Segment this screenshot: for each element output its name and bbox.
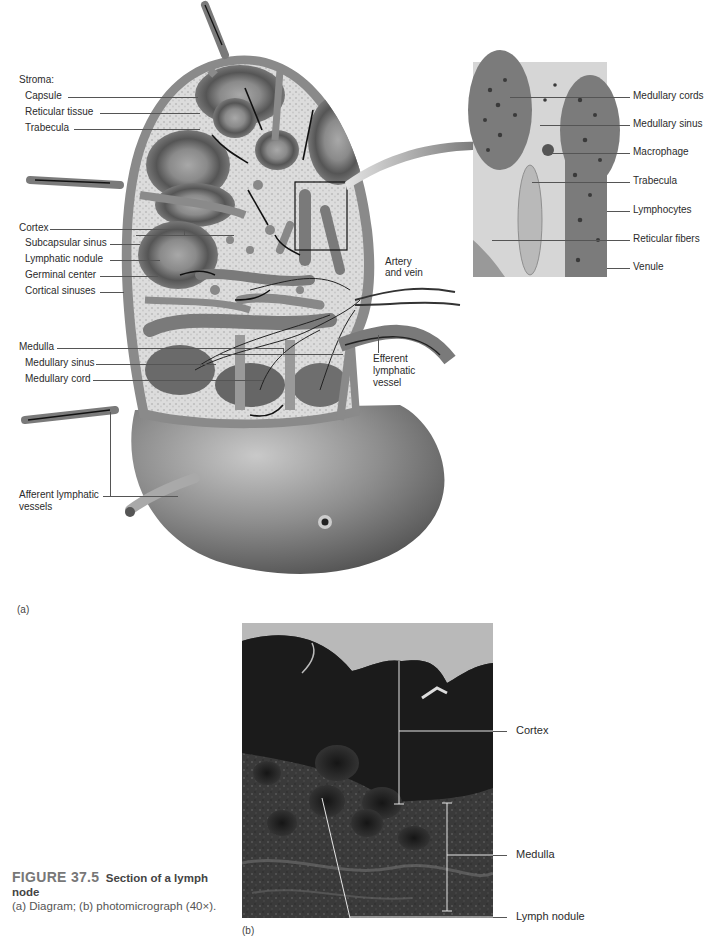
inset-label-macrophage: Macrophage bbox=[633, 146, 689, 158]
label-efferent-vessel: Efferent bbox=[373, 353, 408, 365]
leader-photo-medulla bbox=[493, 855, 507, 856]
panel-b-letter: (b) bbox=[242, 925, 254, 936]
leader-lymphatic-nodule bbox=[110, 260, 160, 261]
inset-leader-reticular-fibers bbox=[492, 240, 630, 241]
photo-label-medulla: Medulla bbox=[516, 848, 555, 860]
label-stroma-heading: Stroma: bbox=[19, 74, 54, 86]
label-trabecula: Trabecula bbox=[25, 122, 69, 134]
inset-label-reticular-fibers: Reticular fibers bbox=[633, 233, 700, 245]
leader-cortex bbox=[50, 229, 185, 230]
panel-b-photomicrograph bbox=[242, 623, 493, 918]
inset-leader-macrophage bbox=[552, 153, 630, 154]
figure-description: (a) Diagram; (b) photomicrograph (40×). bbox=[12, 899, 237, 913]
leader-germinal-center bbox=[100, 276, 158, 277]
label-afferent-vessels: Afferent lymphatic bbox=[19, 489, 99, 501]
bracket-medulla bbox=[220, 354, 343, 355]
label-cortical-sinuses: Cortical sinuses bbox=[25, 285, 96, 297]
inset-label-venule: Venule bbox=[633, 261, 664, 273]
photomicrograph-image bbox=[242, 623, 493, 918]
inset-label-medullary-sinus: Medullary sinus bbox=[633, 118, 702, 130]
leader-efferent-vessel bbox=[378, 335, 379, 353]
leader-reticular-tissue bbox=[100, 113, 200, 114]
label-efferent-vessel-line3: vessel bbox=[373, 377, 401, 389]
label-reticular-tissue: Reticular tissue bbox=[25, 106, 93, 118]
leader-photo-cortex bbox=[493, 731, 507, 732]
label-medullary-sinus: Medullary sinus bbox=[25, 357, 94, 369]
label-capsule: Capsule bbox=[25, 90, 62, 102]
label-efferent-vessel-line2: lymphatic bbox=[373, 365, 415, 377]
leader-subcapsular-sinus bbox=[110, 244, 140, 245]
inset-leader-venule bbox=[607, 268, 630, 269]
inset-leader-lymphocytes bbox=[607, 211, 630, 212]
leader-medullary-cord bbox=[93, 380, 263, 381]
panel-a-letter: (a) bbox=[17, 604, 29, 615]
label-afferent-vessels-line2: vessels bbox=[19, 501, 52, 513]
inset-label-lymphocytes: Lymphocytes bbox=[633, 204, 692, 216]
figure-number: FIGURE 37.5 bbox=[12, 869, 99, 885]
leader-medulla bbox=[57, 348, 283, 349]
photo-label-lymph-nodule: Lymph nodule bbox=[516, 910, 585, 922]
label-medulla: Medulla bbox=[19, 341, 54, 353]
label-artery-and-vein-line2: and vein bbox=[385, 267, 423, 279]
figure-caption: FIGURE 37.5 Section of a lymph node (a) … bbox=[12, 870, 237, 913]
photo-label-cortex: Cortex bbox=[516, 724, 548, 736]
leader-capsule bbox=[68, 97, 198, 98]
inset-leader-medullary-cords bbox=[510, 97, 630, 98]
inset-label-medullary-cords: Medullary cords bbox=[633, 90, 704, 102]
leader-photo-lymph-nodule bbox=[493, 917, 507, 918]
leader-afferent-vessels-vertical bbox=[110, 412, 111, 496]
label-lymphatic-nodule: Lymphatic nodule bbox=[25, 253, 103, 265]
leader-cortical-sinuses bbox=[100, 292, 124, 293]
bracket-cortex bbox=[136, 235, 234, 236]
label-germinal-center: Germinal center bbox=[25, 269, 96, 281]
label-subcapsular-sinus: Subcapsular sinus bbox=[25, 237, 107, 249]
inset-leader-trabecula bbox=[532, 182, 630, 183]
lymph-node-illustration bbox=[0, 0, 723, 610]
label-cortex: Cortex bbox=[19, 222, 48, 234]
leader-afferent-vessels bbox=[103, 496, 178, 497]
inset-label-trabecula: Trabecula bbox=[633, 175, 677, 187]
panel-a-diagram: Stroma: Capsule Reticular tissue Trabecu… bbox=[0, 0, 723, 610]
leader-trabecula bbox=[74, 129, 200, 130]
leader-medullary-sinus bbox=[96, 364, 216, 365]
inset-leader-medullary-sinus bbox=[540, 125, 630, 126]
label-medullary-cord: Medullary cord bbox=[25, 373, 91, 385]
figure-description-text: (a) Diagram; (b) photomicrograph (40×). bbox=[12, 900, 216, 912]
